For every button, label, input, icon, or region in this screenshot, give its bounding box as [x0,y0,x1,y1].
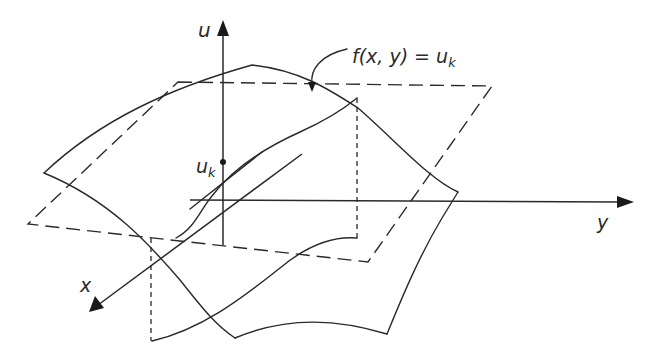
y-axis-arrow-icon [617,196,634,208]
level-value-dot [220,159,226,165]
contour-pointer-line [312,49,347,84]
contour-pointer-arrow-icon [308,82,316,92]
x-axis-arrow-icon [89,296,104,312]
contour-label-subscript: k [448,55,456,70]
contour-label: f(x, y) = uk [352,45,456,70]
surface-left-edge [44,173,235,338]
y-axis-label: y [596,211,609,233]
u-axis-label: u [198,18,211,42]
level-plane [28,82,492,262]
surface-fold-curve [152,238,357,341]
y-axis [190,200,620,202]
level-value-subscript: k [208,165,216,180]
u-axis-arrow-icon [217,20,229,36]
level-curve-diagram: u y x uk f(x, y) = uk [0,0,652,358]
x-axis-label: x [79,274,92,296]
surface-right-edge [387,192,458,334]
level-value-label: uk [196,155,216,180]
surface-top-edge [44,65,458,192]
surface-bottom-edge [235,322,387,338]
